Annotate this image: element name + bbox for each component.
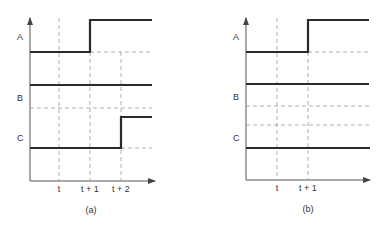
signal-label-c: C xyxy=(17,133,24,143)
signal-label-a: A xyxy=(17,32,23,42)
signal-label-c: C xyxy=(233,133,240,143)
diagram-a: A B C t t + 1 t + 2 (a) xyxy=(17,18,155,215)
caption-b: (b) xyxy=(303,204,314,214)
tick-label-t1: t + 1 xyxy=(81,184,99,194)
diagram-b: A B C t t + 1 (b) xyxy=(233,18,370,214)
signal-a-trace xyxy=(246,20,369,52)
signal-label-a: A xyxy=(233,32,239,42)
signal-label-b: B xyxy=(17,93,23,103)
signal-label-b: B xyxy=(233,92,239,102)
tick-label-t2: t + 2 xyxy=(112,184,130,194)
caption-a: (a) xyxy=(86,205,97,215)
tick-label-t: t xyxy=(276,183,279,193)
signal-a-trace xyxy=(30,20,152,52)
tick-label-t1: t + 1 xyxy=(299,183,317,193)
timing-diagrams: A B C t t + 1 t + 2 (a) A B C t t + 1 ( xyxy=(0,0,384,225)
tick-label-t: t xyxy=(58,184,61,194)
signal-c-trace xyxy=(30,117,152,148)
